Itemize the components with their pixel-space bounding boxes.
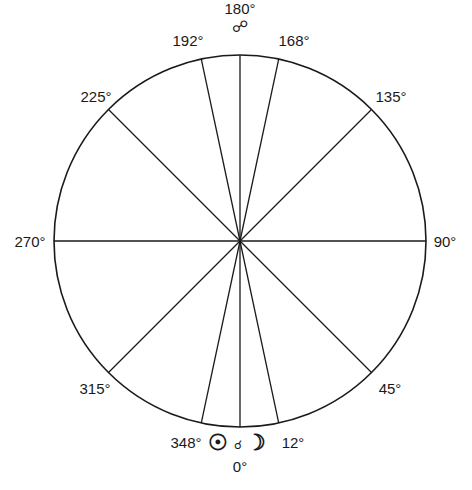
label-deg-168: 168°: [278, 33, 309, 49]
radial-line-12: [240, 241, 279, 423]
label-deg-0: 0°: [233, 459, 247, 475]
radial-line-315: [109, 241, 241, 373]
moon-symbol-icon: ☽: [246, 432, 266, 454]
label-deg-315: 315°: [79, 381, 110, 397]
label-deg-135: 135°: [375, 89, 406, 105]
radial-line-348: [201, 241, 240, 423]
label-deg-225: 225°: [80, 89, 111, 105]
opposition-symbol-icon: ☍: [232, 19, 248, 35]
label-deg-180: 180°: [224, 1, 255, 17]
angle-diagram: 180°192°168°225°135°270°90°315°45°348°12…: [0, 0, 472, 490]
conjunction-symbol-icon: ☌: [234, 439, 242, 451]
radial-line-225: [109, 110, 241, 242]
label-deg-90: 90°: [434, 234, 457, 250]
label-deg-348: 348°: [170, 435, 201, 451]
radial-line-192: [201, 59, 240, 241]
label-deg-12: 12°: [282, 435, 305, 451]
label-deg-192: 192°: [172, 33, 203, 49]
label-deg-45: 45°: [379, 381, 402, 397]
sun-symbol-icon: ☉: [208, 432, 228, 454]
radial-line-45: [240, 241, 372, 373]
circle-diagram: [0, 0, 472, 490]
radial-lines: [54, 55, 426, 427]
label-deg-270: 270°: [14, 234, 45, 250]
radial-line-135: [240, 110, 372, 242]
radial-line-168: [240, 59, 279, 241]
